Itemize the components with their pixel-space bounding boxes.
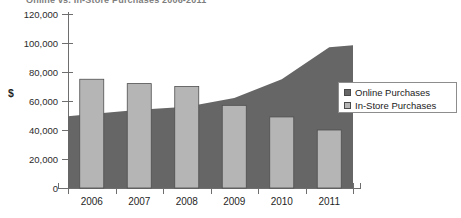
- x-axis-line: [58, 188, 361, 189]
- legend-swatch-in-store-purchases: [344, 102, 351, 109]
- x-tick-mark: [68, 183, 69, 194]
- legend-item-in-store-purchases[interactable]: In-Store Purchases: [344, 99, 452, 111]
- x-axis-end-tick: [58, 183, 59, 189]
- y-tick-label: 40,000: [0, 125, 58, 136]
- y-tick-mark: [62, 14, 73, 15]
- chart-legend: Online Purchases In-Store Purchases: [338, 82, 457, 113]
- in-store-purchases-bars: [80, 79, 342, 188]
- legend-label-in-store-purchases: In-Store Purchases: [355, 100, 436, 111]
- x-axis-end-tick: [360, 183, 361, 189]
- area-online-purchases: [68, 45, 353, 188]
- x-tick-label: 2006: [81, 196, 103, 207]
- chart-container: Online vs. In-Store Purchases 2006-2011 …: [0, 0, 461, 218]
- y-tick-label: 0: [0, 183, 58, 194]
- bar-in-store-purchases: [222, 105, 246, 188]
- bar-in-store-purchases: [270, 117, 294, 188]
- x-tick-mark: [306, 183, 307, 194]
- x-tick-mark: [211, 183, 212, 194]
- y-tick-mark: [62, 159, 73, 160]
- x-tick-label: 2007: [128, 196, 150, 207]
- x-tick-label: 2009: [223, 196, 245, 207]
- x-tick-label: 2010: [271, 196, 293, 207]
- y-tick-mark: [62, 101, 73, 102]
- x-tick-mark: [353, 183, 354, 194]
- x-tick-label: 2008: [176, 196, 198, 207]
- online-purchases-area: [68, 45, 353, 188]
- x-tick-mark: [258, 183, 259, 194]
- x-tick-mark: [116, 183, 117, 194]
- legend-item-online-purchases[interactable]: Online Purchases: [344, 86, 452, 98]
- y-tick-mark: [62, 43, 73, 44]
- legend-label-online-purchases: Online Purchases: [355, 87, 430, 98]
- y-tick-label: 100,000: [0, 38, 58, 49]
- x-tick-label: 2011: [318, 196, 340, 207]
- y-tick-label: 20,000: [0, 154, 58, 165]
- y-tick-mark: [62, 130, 73, 131]
- legend-swatch-online-purchases: [344, 89, 351, 96]
- y-tick-label: 120,000: [0, 9, 58, 20]
- bar-in-store-purchases: [80, 79, 104, 188]
- y-tick-mark: [62, 72, 73, 73]
- x-tick-mark: [163, 183, 164, 194]
- y-tick-label: 60,000: [0, 96, 58, 107]
- chart-title: Online vs. In-Store Purchases 2006-2011: [26, 0, 356, 4]
- bar-in-store-purchases: [317, 130, 341, 188]
- y-tick-label: 80,000: [0, 67, 58, 78]
- bar-in-store-purchases: [127, 84, 151, 188]
- bar-in-store-purchases: [175, 87, 199, 189]
